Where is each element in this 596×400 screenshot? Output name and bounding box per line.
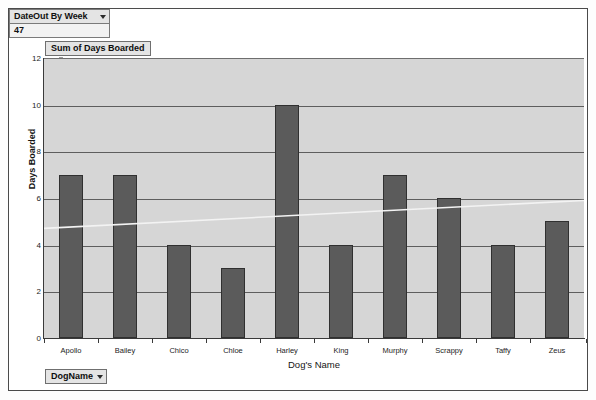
- x-axis-ticks: ApolloBaileyChicoChloeHarleyKingMurphySc…: [44, 339, 584, 355]
- bar[interactable]: [329, 245, 353, 338]
- x-tick-label: Taffy: [476, 339, 530, 355]
- page-filter-value[interactable]: 47: [9, 24, 110, 38]
- plot-wrapper: [43, 58, 584, 338]
- page-filter-label: DateOut By Week: [14, 10, 87, 23]
- y-axis-ticks: 024681012: [25, 58, 41, 338]
- bar-series: [44, 59, 584, 338]
- chevron-down-icon[interactable]: [100, 15, 106, 19]
- x-axis-tick-end: [586, 339, 587, 343]
- bar-cell: [44, 59, 98, 338]
- bar[interactable]: [383, 175, 407, 338]
- bar[interactable]: [275, 105, 299, 338]
- y-tick-label: 0: [37, 334, 41, 343]
- bar-cell: [152, 59, 206, 338]
- page-filter-control[interactable]: DateOut By Week 47: [9, 9, 110, 38]
- plot-area: [44, 58, 584, 338]
- x-tick-label: Scrappy: [422, 339, 476, 355]
- bar-cell: [98, 59, 152, 338]
- series-label[interactable]: Sum of Days Boarded: [45, 41, 151, 56]
- x-tick-label: Chico: [152, 339, 206, 355]
- y-tick-label: 8: [37, 147, 41, 156]
- bar[interactable]: [221, 268, 245, 338]
- bar[interactable]: [437, 198, 461, 338]
- x-tick-label: Murphy: [368, 339, 422, 355]
- bar-cell: [206, 59, 260, 338]
- bar-cell: [530, 59, 584, 338]
- field-button-dogname[interactable]: DogName: [45, 369, 107, 384]
- chart-frame: DateOut By Week 47 Sum of Days Boarded D…: [8, 8, 588, 391]
- bar[interactable]: [167, 245, 191, 338]
- y-tick-label: 12: [32, 54, 41, 63]
- bar[interactable]: [491, 245, 515, 338]
- bar-cell: [368, 59, 422, 338]
- bar-cell: [476, 59, 530, 338]
- x-tick-label: Bailey: [98, 339, 152, 355]
- page-filter-header[interactable]: DateOut By Week: [9, 9, 110, 24]
- x-axis-title: Dog's Name: [43, 359, 585, 370]
- field-button-label: DogName: [51, 370, 93, 383]
- bar[interactable]: [113, 175, 137, 338]
- bar-cell: [260, 59, 314, 338]
- y-tick-label: 2: [37, 287, 41, 296]
- chevron-down-icon[interactable]: [97, 375, 103, 379]
- bar-cell: [422, 59, 476, 338]
- x-tick-label: Harley: [260, 339, 314, 355]
- y-tick-label: 10: [32, 100, 41, 109]
- x-tick-label: Zeus: [530, 339, 584, 355]
- bar[interactable]: [545, 221, 569, 338]
- y-tick-label: 4: [37, 240, 41, 249]
- bar[interactable]: [59, 175, 83, 338]
- y-tick-label: 6: [37, 194, 41, 203]
- pivotchart-view: DateOut By Week 47 Sum of Days Boarded D…: [0, 0, 596, 400]
- bar-cell: [314, 59, 368, 338]
- x-tick-label: King: [314, 339, 368, 355]
- x-tick-label: Chloe: [206, 339, 260, 355]
- x-tick-label: Apollo: [44, 339, 98, 355]
